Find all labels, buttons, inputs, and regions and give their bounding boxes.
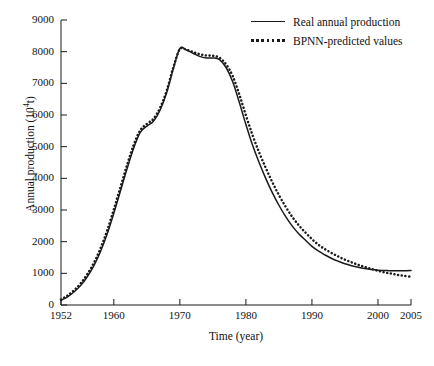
legend-solid-line-icon	[250, 17, 286, 27]
series-line-2	[61, 48, 411, 300]
x-tick-label: 1990	[282, 310, 342, 321]
x-tick-label: 1960	[84, 310, 144, 321]
y-axis-title-suffix: t)	[24, 96, 36, 103]
y-axis-title-prefix: Annual production (10	[24, 107, 36, 212]
legend-label-bpnn-predicted-values: BPNN-predicted values	[293, 35, 403, 47]
chart-legend: Real annual production BPNN-predicted va…	[250, 12, 430, 50]
y-tick-label: 9000	[0, 14, 54, 25]
x-tick-label: 1980	[216, 310, 276, 321]
y-axis-title: Annual production (104t)	[24, 69, 36, 239]
legend-label-real-annual-production: Real annual production	[293, 16, 400, 28]
x-axis-title: Time (year)	[61, 330, 411, 342]
legend-item-bpnn-predicted-values: BPNN-predicted values	[250, 31, 430, 50]
x-tick-label: 1970	[150, 310, 210, 321]
legend-item-real-annual-production: Real annual production	[250, 12, 430, 31]
axes	[61, 20, 411, 305]
y-tick-label: 8000	[0, 46, 54, 57]
data-series	[61, 47, 411, 300]
y-tick-label: 1000	[0, 267, 54, 278]
x-tick-label: 2005	[381, 310, 434, 321]
chart-figure: 0100020003000400050006000700080009000 19…	[0, 0, 434, 366]
x-tick-label: 1952	[31, 310, 91, 321]
y-tick-label: 0	[0, 299, 54, 310]
legend-dotted-line-icon	[250, 36, 286, 46]
series-line-1	[61, 47, 411, 300]
y-axis-title-exponent: 4	[22, 103, 31, 107]
